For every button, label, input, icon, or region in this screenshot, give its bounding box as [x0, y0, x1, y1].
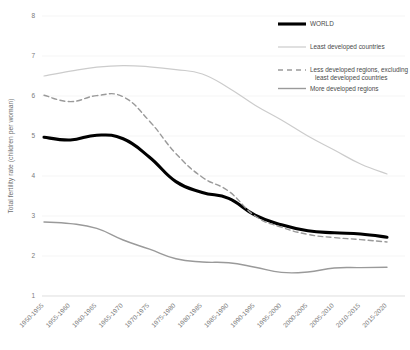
y-axis-tick-label: 5 — [31, 132, 35, 139]
y-axis-title: Total fertility rate (children per woman… — [7, 98, 15, 213]
legend-label-2: Least developed countries — [310, 43, 385, 51]
y-axis-tick-label: 2 — [31, 252, 35, 259]
x-axis-tick-label: 2005-2010 — [308, 301, 335, 328]
series-line-2 — [44, 66, 387, 174]
x-axis-tick-label: 2000-2005 — [282, 301, 309, 328]
y-axis-tick-label: 8 — [31, 12, 35, 19]
legend-label-1: WORLD — [310, 20, 334, 27]
chart-canvas: 87654321 1950-19551955-19601960-19651965… — [0, 0, 410, 350]
fertility-rate-line-chart: 87654321 1950-19551955-19601960-19651965… — [0, 0, 410, 350]
x-axis-tick-label: 2010-2015 — [334, 301, 361, 328]
x-axis-tick-label: 1970-1975 — [123, 301, 150, 328]
y-axis-tick-label: 7 — [31, 52, 35, 59]
x-axis-tick-label: 1950-1955 — [18, 301, 45, 328]
legend: WORLDLeast developed countriesLess devel… — [278, 20, 409, 93]
series-line-3 — [44, 94, 387, 242]
x-axis-tick-label: 1955-1960 — [44, 301, 71, 328]
x-axis-tick-label: 1995-2000 — [255, 301, 282, 328]
x-axis-tick-label: 1975-1980 — [150, 301, 177, 328]
series-line-4 — [44, 222, 387, 273]
y-axis-tick-label: 4 — [31, 172, 35, 179]
y-axis-tick-label: 3 — [31, 212, 35, 219]
x-axis-tick-label: 1990-1995 — [229, 301, 256, 328]
x-axis-tick-label: 2015-2020 — [361, 301, 388, 328]
x-axis-tick-label: 1985-1990 — [202, 301, 229, 328]
x-axis-tick-label: 1965-1970 — [97, 301, 124, 328]
y-axis-tick-label: 1 — [31, 292, 35, 299]
x-axis-tick-labels: 1950-19551955-19601960-19651965-19701970… — [18, 301, 388, 328]
y-axis-tick-labels: 87654321 — [31, 12, 35, 299]
legend-label-3-line2: least developed countries — [315, 74, 387, 82]
legend-label-3: Less developed regions, excluding — [310, 66, 409, 74]
y-axis-tick-label: 6 — [31, 92, 35, 99]
data-series-group — [44, 66, 387, 273]
gridlines-group — [42, 16, 405, 296]
legend-label-4: More developed regions — [310, 85, 379, 93]
x-axis-tick-label: 1980-1985 — [176, 301, 203, 328]
x-axis-tick-label: 1960-1965 — [71, 301, 98, 328]
